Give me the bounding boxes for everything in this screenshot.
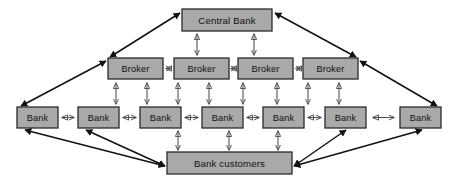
node-bank-1[interactable]: Bank xyxy=(17,107,58,128)
node-bank-5[interactable]: Bank xyxy=(263,107,304,128)
bank-to-customers-links xyxy=(178,131,278,150)
bank-1-label: Bank xyxy=(27,113,49,123)
bank-4-label: Bank xyxy=(212,113,234,123)
diagram-canvas: Central Bank Broker Broker Broker Broker… xyxy=(0,0,458,183)
node-broker-2[interactable]: Broker xyxy=(174,58,229,79)
node-bank-3[interactable]: Bank xyxy=(140,107,181,128)
bank-3-label: Bank xyxy=(150,113,172,123)
link-broker4-central xyxy=(275,13,356,57)
central-to-broker-links xyxy=(197,34,254,55)
node-bank-customers[interactable]: Bank customers xyxy=(167,152,292,174)
node-bank-2[interactable]: Bank xyxy=(78,107,119,128)
bank-6-label: Bank xyxy=(335,113,357,123)
node-broker-3[interactable]: Broker xyxy=(238,58,293,79)
link-bank7-broker4 xyxy=(360,61,437,106)
link-bank1-customers xyxy=(25,130,165,166)
node-bank-4[interactable]: Bank xyxy=(202,107,243,128)
node-central-bank[interactable]: Central Bank xyxy=(182,9,272,31)
link-bank1-broker1 xyxy=(21,61,106,106)
broker-2-label: Broker xyxy=(188,64,216,74)
node-bank-7[interactable]: Bank xyxy=(400,107,441,128)
broker-4-label: Broker xyxy=(317,64,345,74)
bank-7-label: Bank xyxy=(410,113,432,123)
network-diagram: Central Bank Broker Broker Broker Broker… xyxy=(0,0,458,183)
bank-customers-label: Bank customers xyxy=(194,158,265,169)
bank-2-label: Bank xyxy=(88,113,110,123)
broker-1-label: Broker xyxy=(122,64,150,74)
node-bank-6[interactable]: Bank xyxy=(325,107,366,128)
link-bank7-customers xyxy=(294,130,422,166)
link-broker1-central xyxy=(110,13,180,57)
broker-3-label: Broker xyxy=(252,64,280,74)
central-bank-label: Central Bank xyxy=(198,15,255,26)
node-broker-4[interactable]: Broker xyxy=(303,58,358,79)
node-broker-1[interactable]: Broker xyxy=(108,58,163,79)
bank-5-label: Bank xyxy=(273,113,295,123)
broker-to-bank-links xyxy=(116,83,339,104)
link-bank6-customers xyxy=(294,130,346,166)
